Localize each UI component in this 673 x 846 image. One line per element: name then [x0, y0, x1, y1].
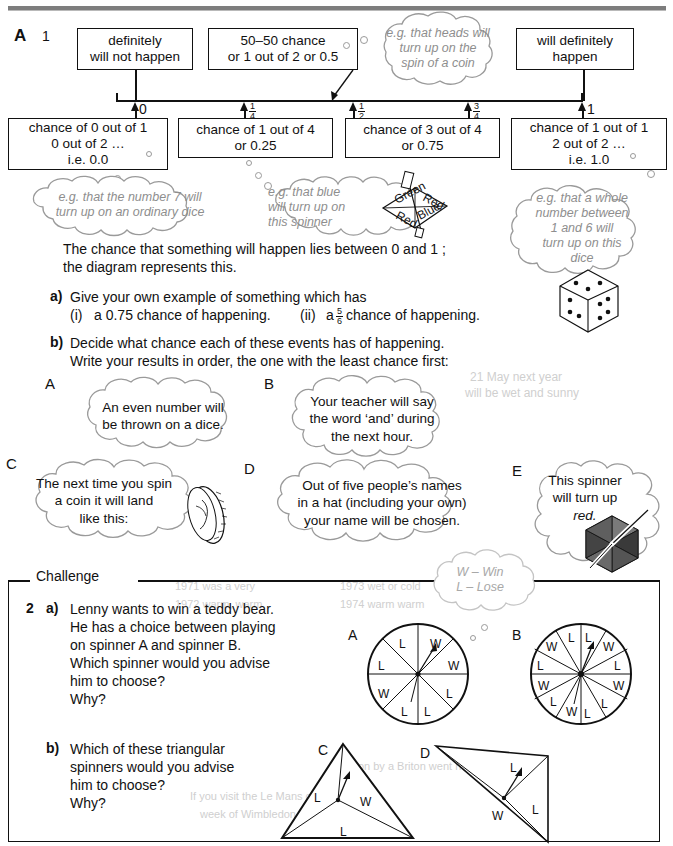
challenge-b-line-2: spinners would you advise [70, 758, 234, 776]
spinner-d-letter: D [420, 745, 430, 761]
cloud-line: turn up on an ordinary dice [56, 205, 205, 220]
challenge-a-line-4: Which spinner would you advise [70, 654, 270, 672]
box-line: or 0.25 [234, 138, 276, 154]
box-line: happen [552, 49, 597, 65]
challenge-part-a-label: a) [46, 600, 58, 616]
cloud-line: will turn up [553, 489, 618, 507]
svg-text:Blue: Blue [415, 199, 443, 223]
cloud-text-blue-spinner: e.g. that blue will turn up on this spin… [268, 184, 374, 230]
svg-text:Green: Green [392, 179, 428, 207]
connector-line [582, 111, 584, 118]
spinner-c-letter: C [318, 742, 328, 758]
box-line: chance of 3 out of 4 [363, 122, 482, 138]
cloud-line: this spinner [268, 215, 332, 230]
cloud-text-dice7: e.g. that the number 7 will turn up on a… [26, 184, 234, 226]
part-a-ii-label: (ii) [300, 306, 316, 324]
diamond-spinner-icon: Green Red Red Blue [375, 178, 459, 238]
event-letter-c: C [6, 455, 17, 472]
cloud-line: 1 and 6 will [551, 221, 614, 236]
cloud-line: will turn up on [268, 200, 345, 215]
cloud-line: dice [571, 251, 594, 266]
bubble-dot [630, 153, 636, 159]
challenge-rule-right [138, 580, 660, 582]
box-line: or 0.75 [401, 138, 443, 154]
svg-text:Red: Red [394, 208, 420, 231]
cloud-text-event-a: An even number will be thrown on a dice. [78, 386, 248, 446]
cloud-line: red. [573, 507, 596, 525]
bubble-dot [481, 624, 488, 631]
challenge-a-line-1: Lenny wants to win a teddy bear. [70, 600, 274, 618]
number-line-end [581, 93, 583, 102]
spinner-a-letter: A [348, 627, 357, 643]
cloud-line: e.g. that blue [268, 185, 340, 200]
challenge-a-line-5: him to choose? [70, 672, 165, 690]
challenge-b-line-3: him to choose? [70, 776, 165, 794]
question-number: 1 [42, 28, 50, 44]
box-line: 0 out of 2 … [51, 136, 125, 152]
box-line: 50–50 chance [241, 33, 326, 49]
box-chance-0-out-of-1: chance of 0 out of 1 0 out of 2 … i.e. 0… [8, 118, 168, 170]
bubble-dot [255, 172, 262, 179]
event-letter-d: D [244, 460, 255, 477]
challenge-number: 2 [26, 600, 34, 616]
box-line: definitely [108, 33, 161, 49]
cloud-line: W – Win [456, 565, 503, 580]
cloud-line: Your teacher will say [310, 393, 433, 411]
part-b-label: b) [50, 334, 63, 350]
box-will-definitely-happen: will definitely happen [516, 28, 634, 70]
cloud-text-event-e: This spinner will turn up red. [530, 470, 640, 526]
page-top-rule [8, 6, 666, 10]
cloud-line: the next hour. [331, 428, 413, 446]
part-a-ii-text-after: chance of happening. [346, 306, 480, 324]
challenge-a-line-6: Why? [70, 690, 106, 708]
event-letter-b: B [264, 375, 274, 392]
section-letter: A [14, 26, 26, 46]
coin-icon [178, 482, 238, 550]
tick-label-0: 0 [139, 101, 147, 117]
cloud-line: L – Lose [456, 580, 504, 595]
cloud-line: number between [535, 206, 628, 221]
bubble-dot [114, 175, 121, 182]
cloud-text-coin: e.g. that heads will turn up on the spin… [372, 18, 504, 78]
challenge-a-line-3: on spinner A and spinner B. [70, 636, 241, 654]
cloud-line: The next time you spin [36, 475, 172, 493]
cloud-line: This spinner [548, 472, 622, 490]
number-line-end [116, 93, 118, 102]
box-line: 2 out of 2 … [552, 136, 626, 152]
ghost-text: 21 May next year [470, 370, 562, 384]
part-a-ii-text-before: a [326, 306, 334, 324]
part-b-text-1: Decide what chance each of these events … [70, 334, 444, 352]
box-definitely-will-not-happen: definitely will not happen [77, 28, 193, 70]
cloud-line: e.g. that a whole [536, 191, 628, 206]
cloud-line: spin of a coin [401, 56, 475, 71]
bubble-dot [246, 160, 252, 166]
cloud-text-event-c: The next time you spin a coin it will la… [24, 468, 184, 534]
bubble-dot [360, 36, 368, 44]
textbook-page: 21 May next year will be wet and sunny 1… [0, 0, 673, 846]
box-line: will not happen [90, 49, 180, 65]
box-line: chance of 0 out of 1 [29, 120, 148, 136]
box-chance-1-out-of-4: chance of 1 out of 4 or 0.25 [178, 118, 333, 158]
connector-line [583, 70, 585, 101]
ghost-text: will be wet and sunny [465, 386, 579, 400]
cloud-line: turn up on the [399, 41, 476, 56]
part-a-i-text: a 0.75 chance of happening. [94, 306, 271, 324]
box-line: chance of 1 out of 4 [196, 122, 315, 138]
part-b-text-2: Write your results in order, the one wit… [70, 352, 449, 370]
cloud-line: in a hat (including your own) [298, 494, 467, 512]
cloud-line: the word ‘and’ during [310, 410, 435, 428]
bubble-dot [343, 42, 350, 49]
event-letter-a: A [45, 375, 55, 392]
intro-line-1: The chance that something will happen li… [63, 240, 446, 258]
cloud-line: e.g. that heads will [386, 26, 490, 41]
svg-text:Red: Red [421, 190, 447, 213]
connector-line [244, 111, 246, 118]
bubble-dot [146, 151, 152, 157]
box-line: or 1 out of 2 or 0.5 [228, 49, 338, 65]
cloud-line: e.g. that the number 7 will [58, 190, 201, 205]
cloud-line: Out of five people’s names [302, 477, 462, 495]
cloud-text-whole-number: e.g. that a whole number between 1 and 6… [508, 190, 656, 266]
fraction-five-sixths: 5 6 [336, 307, 343, 326]
challenge-rule-left [8, 580, 30, 582]
box-chance-1-out-of-1: chance of 1 out of 1 2 out of 2 … i.e. 1… [511, 118, 667, 170]
